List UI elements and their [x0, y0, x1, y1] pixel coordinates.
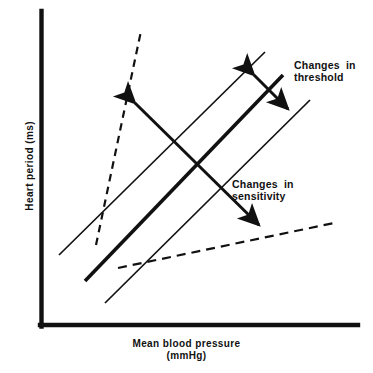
threshold-label-line1: Changes in: [294, 59, 356, 71]
y-axis-title: Heart period (ms): [24, 76, 36, 256]
changes-in-threshold-label: Changes inthreshold: [294, 59, 356, 84]
baroreflex-figure: Changes inthreshold Changes insensitivit…: [0, 0, 373, 373]
curve-group: [59, 31, 334, 303]
x-axis-title-line2: (mmHg): [0, 350, 373, 362]
x-axis-title: Mean blood pressure(mmHg): [0, 338, 373, 362]
curve-shallow-dashed: [118, 223, 334, 268]
sensitivity-label-line2: sensitivity: [232, 190, 286, 202]
x-axis-title-line1: Mean blood pressure: [0, 338, 373, 350]
changes-in-sensitivity-label: Changes insensitivity: [232, 178, 294, 203]
plot-canvas: [0, 0, 373, 373]
threshold-label-line2: threshold: [294, 71, 344, 83]
curve-solid-thin-left: [59, 52, 265, 255]
sensitivity-label-line1: Changes in: [232, 178, 294, 190]
threshold-arrow: [254, 75, 288, 109]
